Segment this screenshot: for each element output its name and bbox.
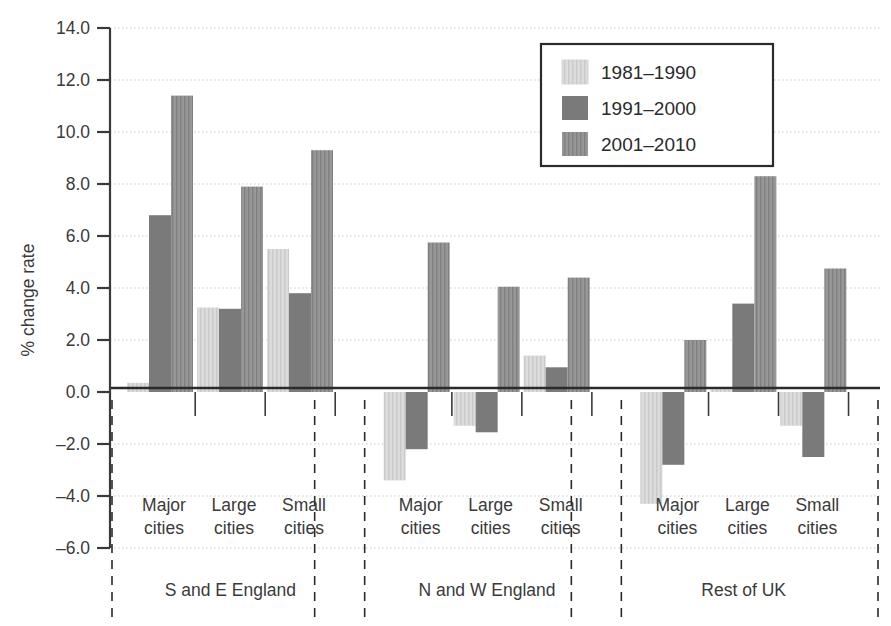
bar (824, 269, 846, 393)
legend-label-1991-2000: 1991–2000 (601, 98, 696, 119)
category-label: cities (797, 518, 837, 538)
bar (662, 392, 684, 465)
bar (149, 215, 171, 392)
bar (780, 392, 802, 426)
category-label: Large (725, 495, 770, 515)
legend: 1981–1990 1991–2000 2001–2010 (541, 44, 773, 166)
bar (710, 389, 732, 392)
category-label: Major (655, 495, 699, 515)
y-tick-label: –6.0 (56, 538, 90, 558)
bar (197, 308, 219, 393)
y-tick-label: 6.0 (66, 226, 91, 246)
bar (384, 392, 406, 480)
bar (684, 340, 706, 392)
category-label: Small (282, 495, 326, 515)
bar (524, 356, 546, 392)
y-tick-label: –2.0 (56, 434, 90, 454)
group-label: Rest of UK (701, 580, 786, 600)
group-label: S and E England (165, 580, 296, 600)
y-tick-label: 12.0 (56, 70, 90, 90)
bar (311, 150, 333, 392)
category-label: cities (401, 518, 441, 538)
category-label: cities (657, 518, 697, 538)
category-label: cities (727, 518, 767, 538)
bar (219, 309, 241, 392)
bar (289, 293, 311, 392)
category-label: cities (541, 518, 581, 538)
bar (568, 278, 590, 392)
y-tick-label: 2.0 (66, 330, 91, 350)
category-label: Large (212, 495, 257, 515)
y-tick-label: 10.0 (56, 122, 90, 142)
legend-swatch-1981-1990 (562, 60, 588, 84)
bar (428, 243, 450, 393)
legend-swatch-2001-2010 (562, 132, 588, 156)
y-tick-label: 0.0 (66, 382, 91, 402)
category-label: cities (284, 518, 324, 538)
bar (406, 392, 428, 449)
bar (754, 176, 776, 392)
bar (498, 287, 520, 392)
bar (267, 249, 289, 392)
y-tick-label: 4.0 (66, 278, 91, 298)
legend-label-2001-2010: 2001–2010 (601, 134, 696, 155)
y-axis-title: % change rate (18, 244, 38, 357)
category-label: Large (468, 495, 513, 515)
category-label: cities (471, 518, 511, 538)
legend-label-1981-1990: 1981–1990 (601, 62, 696, 83)
bar (640, 392, 662, 504)
category-label: cities (144, 518, 184, 538)
bar (802, 392, 824, 457)
y-tick-label: 8.0 (66, 174, 91, 194)
bar (241, 187, 263, 392)
bar (454, 392, 476, 426)
group-label: N and W England (418, 580, 555, 600)
category-label: Small (795, 495, 839, 515)
legend-swatch-1991-2000 (562, 96, 588, 120)
bar (476, 392, 498, 432)
category-label: Small (539, 495, 583, 515)
y-tick-label: 14.0 (56, 18, 90, 38)
category-label: Major (142, 495, 186, 515)
bar-chart: MajorcitiesLargecitiesSmallcitiesMajorci… (0, 0, 891, 626)
bar (171, 96, 193, 392)
y-tick-label: –4.0 (56, 486, 90, 506)
bar (732, 304, 754, 392)
chart-container: MajorcitiesLargecitiesSmallcitiesMajorci… (0, 0, 891, 626)
category-label: Major (399, 495, 443, 515)
category-label: cities (214, 518, 254, 538)
